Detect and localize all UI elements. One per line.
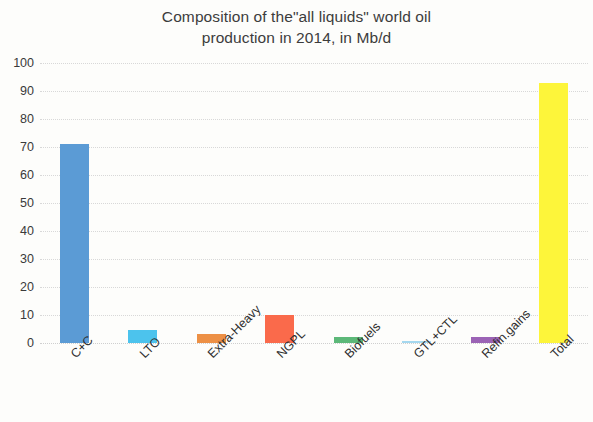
bar-chart-figure: Composition of the"all liquids" world oi… — [0, 0, 593, 422]
y-axis-tick-label: 90 — [0, 84, 34, 98]
y-axis-tick-label: 100 — [0, 56, 34, 70]
y-axis: 1009080706050403020100 — [0, 63, 34, 343]
y-axis-tick-label: 50 — [0, 196, 34, 210]
y-axis-tick-label: 70 — [0, 140, 34, 154]
y-axis-tick-label: 0 — [0, 336, 34, 350]
bars-layer — [40, 63, 588, 343]
y-axis-tick-label: 80 — [0, 112, 34, 126]
bar-c-c[interactable] — [60, 144, 89, 343]
x-axis: C+CLTOExtra-HeavyNGPLBiofuelsGTL+CTLRefi… — [40, 345, 588, 422]
y-axis-tick-label: 10 — [0, 308, 34, 322]
chart-title: Composition of the"all liquids" world oi… — [0, 6, 593, 48]
y-axis-tick-label: 30 — [0, 252, 34, 266]
y-axis-tick-label: 20 — [0, 280, 34, 294]
y-axis-tick-label: 40 — [0, 224, 34, 238]
y-axis-tick-label: 60 — [0, 168, 34, 182]
bar-total[interactable] — [539, 83, 568, 343]
